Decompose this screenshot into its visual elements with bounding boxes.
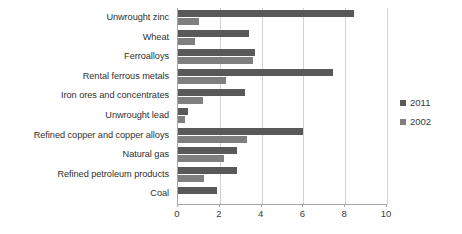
x-axis-tick (177, 204, 178, 207)
bar-2002 (178, 38, 195, 45)
legend-label-2011: 2011 (410, 97, 430, 108)
x-axis-tick (344, 204, 345, 207)
x-axis-line (177, 204, 387, 205)
bar-2011 (178, 49, 255, 56)
gridline (387, 8, 388, 204)
bar-2002 (178, 97, 203, 104)
x-tick-label: 4 (258, 208, 263, 219)
bar-2011 (178, 187, 217, 194)
bar-group (178, 67, 387, 87)
legend-swatch-icon-2011 (400, 100, 406, 106)
x-tick-label: 0 (174, 208, 179, 219)
x-axis-tick (302, 204, 303, 207)
category-axis-labels: Unwrought zincWheatFerroalloysRental fer… (0, 8, 174, 204)
bar-2002 (178, 136, 247, 143)
x-tick-label: 2 (216, 208, 221, 219)
category-label: Unwrought lead (0, 106, 174, 126)
x-axis-tick (219, 204, 220, 207)
category-label: Refined petroleum products (0, 165, 174, 185)
bar-2002 (178, 175, 204, 182)
legend-item-2002: 2002 (400, 116, 431, 127)
legend-swatch-icon-2002 (400, 119, 406, 125)
bar-group (178, 8, 387, 28)
bar-group (178, 28, 387, 48)
bar-2011 (178, 128, 303, 135)
bar-2011 (178, 167, 237, 174)
x-tick-label: 10 (381, 208, 392, 219)
bar-2011 (178, 108, 188, 115)
bar-2011 (178, 69, 333, 76)
category-label: Ferroalloys (0, 47, 174, 67)
bar-2011 (178, 89, 245, 96)
x-axis-tick (261, 204, 262, 207)
category-label: Iron ores and concentrates (0, 86, 174, 106)
category-label: Coal (0, 184, 174, 204)
bar-2002 (178, 57, 253, 64)
bar-group (178, 165, 387, 185)
bar-2002 (178, 77, 226, 84)
bar-group (178, 86, 387, 106)
category-label: Rental ferrous metals (0, 67, 174, 87)
legend-item-2011: 2011 (400, 97, 431, 108)
category-label: Natural gas (0, 145, 174, 165)
x-tick-label: 6 (300, 208, 305, 219)
x-axis-tick-labels: 0246810 (177, 208, 386, 224)
bar-2011 (178, 30, 249, 37)
bar-2011 (178, 10, 354, 17)
category-label: Unwrought zinc (0, 8, 174, 28)
bar-group (178, 145, 387, 165)
legend: 2011 2002 (400, 97, 431, 127)
bar-2002 (178, 18, 199, 25)
plot-area (177, 8, 387, 204)
bar-2011 (178, 147, 237, 154)
bar-rows (178, 8, 387, 204)
bar-group (178, 47, 387, 67)
bar-2002 (178, 155, 224, 162)
category-label: Wheat (0, 28, 174, 48)
bar-group (178, 184, 387, 204)
legend-label-2002: 2002 (410, 116, 431, 127)
x-axis-tick (386, 204, 387, 207)
bar-group (178, 106, 387, 126)
bar-chart: Unwrought zincWheatFerroalloysRental fer… (0, 0, 462, 234)
bar-group (178, 126, 387, 146)
bar-2002 (178, 116, 185, 123)
category-label: Refined copper and copper alloys (0, 126, 174, 146)
x-tick-label: 8 (342, 208, 347, 219)
